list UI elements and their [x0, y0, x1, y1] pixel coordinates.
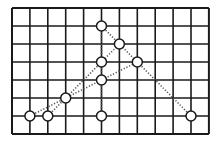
point-circle	[97, 75, 107, 85]
point-circle	[97, 57, 107, 67]
point-circle	[43, 111, 53, 121]
point-circle	[186, 111, 196, 121]
right-diagonal-line	[102, 26, 192, 116]
diagram-canvas	[0, 0, 221, 146]
grid-diagram	[0, 0, 221, 146]
grid-lines	[12, 8, 209, 134]
dotted-lines	[30, 26, 191, 116]
point-circle	[25, 111, 35, 121]
points	[25, 21, 196, 121]
point-circle	[132, 57, 142, 67]
point-circle	[114, 39, 124, 49]
point-circle	[97, 111, 107, 121]
point-circle	[61, 93, 71, 103]
point-circle	[97, 21, 107, 31]
